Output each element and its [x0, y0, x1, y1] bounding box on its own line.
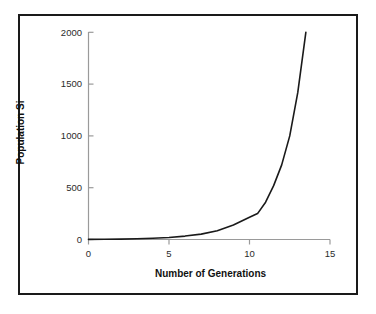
- population-curve: [89, 32, 306, 239]
- chart-plot-area: [0, 0, 376, 314]
- x-axis-title: Number of Generations: [88, 268, 333, 279]
- y-tick-label-500: 500: [44, 183, 82, 193]
- chart-figure: 2000 1500 1000 500 0 0 5 10 15 Populatio…: [0, 0, 376, 314]
- x-tick-label-15: 15: [318, 249, 342, 259]
- x-tick-label-5: 5: [157, 249, 181, 259]
- x-axis-ticks: [89, 240, 331, 245]
- y-axis-ticks: [89, 32, 94, 239]
- y-tick-label-2000: 2000: [44, 28, 82, 38]
- x-tick-label-10: 10: [238, 249, 262, 259]
- y-tick-label-1500: 1500: [44, 79, 82, 89]
- y-axis-title: Population Si: [15, 78, 26, 188]
- x-tick-label-0: 0: [77, 249, 101, 259]
- y-tick-label-1000: 1000: [44, 131, 82, 141]
- y-tick-label-0: 0: [44, 235, 82, 245]
